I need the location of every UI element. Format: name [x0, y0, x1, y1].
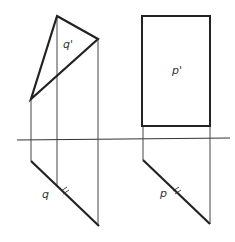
q-prime-label: q' [63, 38, 73, 51]
projection-diagram: q' q p' p [0, 0, 235, 242]
q-frontal-triangle [31, 16, 98, 99]
p-prime-label: p' [171, 64, 182, 77]
q-label: q [42, 188, 49, 201]
p-parallel-mark-icon [173, 187, 181, 194]
projection-axis [17, 138, 230, 140]
p-label: p [159, 187, 167, 200]
q-parallel-mark-icon [61, 187, 69, 194]
p-horizontal-trace [143, 160, 210, 224]
plane-q: q' q [31, 16, 99, 226]
plane-p: p' p [142, 16, 210, 224]
